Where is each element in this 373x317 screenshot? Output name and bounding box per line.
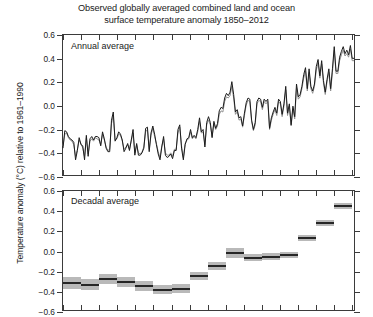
y-axis-tick-label: −0.2 — [39, 267, 55, 277]
decadal-mean-line — [298, 237, 316, 239]
x-axis-tick — [208, 170, 209, 175]
x-axis-tick — [99, 191, 100, 196]
y-axis-tick — [354, 35, 360, 36]
y-axis-tick — [57, 211, 63, 212]
y-axis-tick — [57, 130, 63, 131]
y-axis-tick — [57, 82, 63, 83]
x-axis-tick — [117, 305, 118, 310]
x-axis-tick — [280, 35, 281, 40]
decadal-mean-line — [262, 256, 280, 258]
decadal-mean-line — [81, 284, 99, 286]
y-axis-tick — [57, 106, 63, 107]
y-axis-tick — [57, 312, 63, 313]
x-axis-tick — [208, 35, 209, 40]
x-axis-tick — [208, 191, 209, 196]
y-axis-tick-label: 0.4 — [43, 206, 55, 216]
x-axis-tick — [316, 305, 317, 310]
decadal-mean-line — [226, 252, 244, 254]
x-axis-tick — [244, 35, 245, 40]
y-axis-tick-label: 0.6 — [43, 30, 55, 40]
x-axis-tick — [226, 305, 227, 310]
x-axis-tick — [226, 170, 227, 175]
annual-series-plot — [63, 35, 354, 175]
x-axis-tick — [334, 305, 335, 310]
y-axis-tick — [354, 272, 360, 273]
x-axis-tick — [298, 170, 299, 175]
y-axis-tick-label: 0.2 — [43, 77, 55, 87]
decadal-mean-line — [280, 254, 298, 256]
y-axis-tick-label: 0.0 — [43, 101, 55, 111]
annual-series-line — [63, 49, 354, 158]
x-axis-tick — [208, 305, 209, 310]
figure-title-line-2: surface temperature anomaly 1850–2012 — [0, 14, 373, 26]
y-axis-tick — [354, 153, 360, 154]
annual-average-panel: Annual average 0.60.40.20.0−0.2−0.4−0.6 — [62, 34, 355, 176]
x-axis-tick — [81, 191, 82, 196]
y-axis-tick-label: 0.2 — [43, 226, 55, 236]
y-axis-tick — [354, 312, 360, 313]
decadal-mean-line — [190, 275, 208, 277]
x-axis-tick — [135, 170, 136, 175]
x-axis-tick — [316, 35, 317, 40]
x-axis-tick — [153, 35, 154, 40]
x-axis-tick — [117, 191, 118, 196]
x-axis-tick — [99, 170, 100, 175]
decadal-mean-line — [135, 285, 153, 287]
decadal-mean-line — [316, 222, 334, 224]
x-axis-tick — [316, 170, 317, 175]
y-axis-tick-label: 0.6 — [43, 186, 55, 196]
x-axis-tick — [99, 35, 100, 40]
x-axis-tick — [298, 191, 299, 196]
x-axis-tick — [280, 191, 281, 196]
x-axis-tick — [244, 170, 245, 175]
decadal-mean-line — [117, 281, 135, 283]
x-axis-tick — [190, 191, 191, 196]
y-axis-label: Temperature anomaly (°C) relative to 196… — [15, 57, 25, 289]
y-axis-tick — [354, 252, 360, 253]
y-axis-tick-label: −0.2 — [39, 125, 55, 135]
figure-title-line-1: Observed globally averaged combined land… — [0, 2, 373, 14]
x-axis-tick — [172, 35, 173, 40]
x-axis-tick — [135, 35, 136, 40]
x-axis-tick — [262, 305, 263, 310]
decadal-mean-line — [172, 288, 190, 290]
y-axis-tick — [354, 130, 360, 131]
decadal-mean-line — [99, 278, 117, 280]
x-axis-tick — [63, 170, 64, 175]
decadal-average-panel: Decadal average 0.60.40.20.0−0.2−0.4−0.6 — [62, 190, 355, 311]
y-axis-tick — [354, 106, 360, 107]
y-axis-tick — [354, 211, 360, 212]
decadal-average-label: Decadal average — [71, 196, 139, 206]
x-axis-tick — [190, 35, 191, 40]
x-axis-tick — [298, 35, 299, 40]
x-axis-tick — [63, 305, 64, 310]
y-axis-tick-label: 0.0 — [43, 247, 55, 257]
x-axis-tick — [280, 305, 281, 310]
y-axis-tick — [354, 59, 360, 60]
x-axis-tick — [262, 35, 263, 40]
x-axis-tick — [135, 191, 136, 196]
figure-title: Observed globally averaged combined land… — [0, 2, 373, 26]
y-axis-tick — [57, 231, 63, 232]
y-axis-tick — [57, 272, 63, 273]
x-axis-tick — [99, 305, 100, 310]
y-axis-tick — [354, 82, 360, 83]
x-axis-tick — [226, 191, 227, 196]
x-axis-tick — [352, 191, 353, 196]
x-axis-tick — [153, 305, 154, 310]
decadal-mean-line — [244, 257, 262, 259]
y-axis-tick — [354, 177, 360, 178]
x-axis-tick — [226, 35, 227, 40]
y-axis-tick-label: −0.6 — [39, 307, 55, 317]
y-axis-tick — [57, 59, 63, 60]
x-axis-tick — [244, 191, 245, 196]
x-axis-tick — [352, 35, 353, 40]
x-axis-tick — [298, 305, 299, 310]
x-axis-tick — [334, 35, 335, 40]
x-axis-tick — [190, 170, 191, 175]
x-axis-tick — [117, 35, 118, 40]
x-axis-tick — [280, 170, 281, 175]
x-axis-tick — [81, 35, 82, 40]
x-axis-tick — [81, 170, 82, 175]
